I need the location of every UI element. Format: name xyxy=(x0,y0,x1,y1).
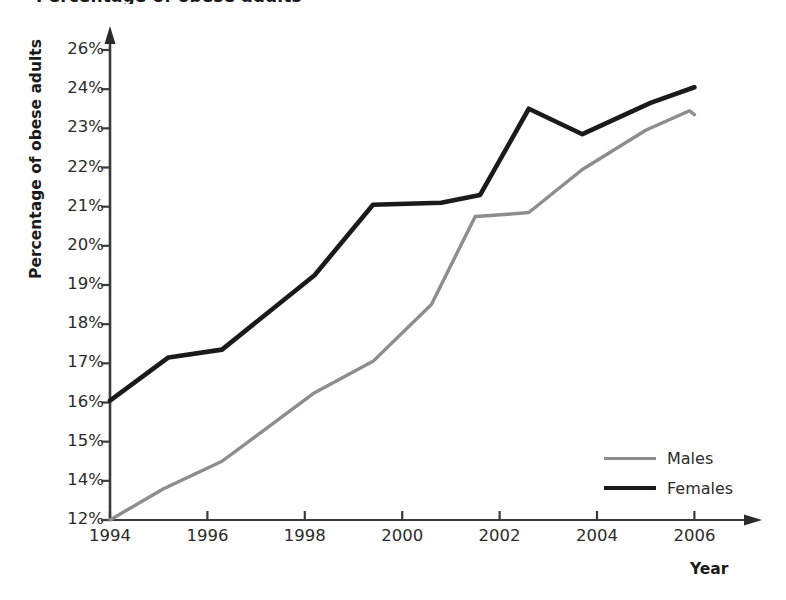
legend: MalesFemales xyxy=(604,443,733,503)
obesity-line-chart: Percentage of obese adults Percentage of… xyxy=(0,0,786,600)
y-axis-ticks xyxy=(101,50,110,520)
x-axis-ticks xyxy=(110,511,694,520)
y-axis-arrow-icon xyxy=(105,26,116,44)
legend-label: Females xyxy=(667,479,733,498)
series-line-females xyxy=(110,87,694,400)
x-axis-arrow-icon xyxy=(744,515,762,526)
legend-label: Males xyxy=(667,449,713,468)
legend-item-females[interactable]: Females xyxy=(604,473,733,503)
legend-swatch-males-icon xyxy=(604,457,656,460)
plot-area xyxy=(0,0,786,600)
legend-swatch-females-icon xyxy=(604,486,656,490)
legend-item-males[interactable]: Males xyxy=(604,443,733,473)
